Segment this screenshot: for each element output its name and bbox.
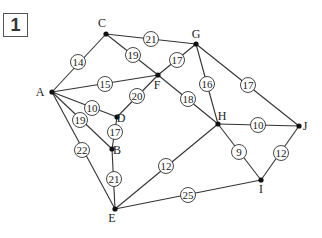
node-D: D	[114, 111, 125, 125]
node-label: I	[259, 182, 263, 196]
edge-weight: 19	[128, 49, 140, 61]
node-C: C	[98, 16, 109, 37]
node-dot	[193, 41, 198, 46]
edge-weight: 25	[183, 189, 195, 201]
node-label: H	[218, 109, 227, 123]
node-label: E	[108, 211, 115, 225]
edge-H-J: 10	[218, 118, 299, 133]
node-B: B	[109, 143, 121, 157]
edge-E-H: 12	[115, 124, 218, 209]
edge-weight: 17	[243, 79, 255, 91]
edge-weight: 17	[110, 126, 122, 138]
node-label: D	[117, 111, 126, 125]
edge-weight: 18	[183, 93, 195, 105]
edge-weight: 14	[73, 56, 85, 68]
node-label: F	[154, 78, 161, 92]
edge-weight: 16	[202, 78, 214, 90]
edge-F-G: 17	[158, 44, 196, 75]
node-label: A	[36, 85, 45, 99]
edge-weight: 21	[109, 173, 120, 185]
node-E: E	[108, 206, 117, 225]
edge-A-B: 19	[52, 92, 112, 149]
node-label: C	[98, 16, 106, 30]
edge-E-I: 25	[115, 180, 261, 209]
edge-weight: 21	[146, 33, 157, 45]
edge-weight: 22	[77, 144, 88, 156]
node-A: A	[36, 85, 55, 99]
node-dot	[103, 31, 108, 36]
edge-weight: 10	[87, 102, 99, 114]
edge-weight: 10	[253, 119, 265, 131]
edge-weight: 9	[236, 146, 242, 158]
node-J: J	[296, 119, 307, 133]
edge-G-H: 16	[196, 44, 218, 124]
node-I: I	[258, 177, 263, 196]
node-label: B	[113, 143, 121, 157]
node-label: J	[303, 119, 308, 133]
edge-weight: 15	[100, 78, 112, 90]
edge-weight: 12	[161, 160, 172, 172]
node-dot	[155, 72, 160, 77]
edge-weight: 12	[276, 147, 287, 159]
edge-weight: 19	[75, 114, 87, 126]
edge-H-I: 9	[218, 124, 261, 180]
edge-A-E: 22	[52, 92, 115, 209]
edge-weight: 17	[172, 54, 184, 66]
node-dot	[296, 123, 301, 128]
edge-weight: 20	[132, 90, 144, 102]
edge-B-E: 21	[107, 149, 122, 209]
edge-I-J: 12	[261, 126, 299, 180]
node-dot	[49, 89, 54, 94]
weighted-graph: 1421191517161718102019172221122510912 AC…	[0, 0, 322, 238]
node-label: G	[192, 27, 201, 41]
